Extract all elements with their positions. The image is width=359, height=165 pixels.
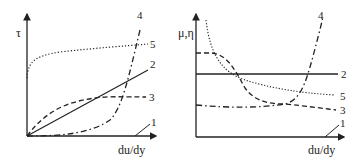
left-label-4: 4 xyxy=(137,9,143,21)
right-label-4: 4 xyxy=(318,9,324,21)
right-y-label: μ,η xyxy=(178,26,194,40)
right-x-label: du/dy xyxy=(308,143,335,157)
left-y-label: τ xyxy=(16,26,21,40)
right-label-3: 3 xyxy=(340,104,346,116)
left-label-2: 2 xyxy=(150,58,156,70)
right-curve-3 xyxy=(196,53,336,110)
right-plot: μ,η du/dy 4 2 5 3 1 xyxy=(178,9,347,157)
right-curve-5 xyxy=(206,20,335,95)
left-label-5: 5 xyxy=(150,38,156,50)
left-curve-2 xyxy=(27,70,148,136)
figure: τ du/dy 4 5 2 3 1 μ,η du/dy 4 2 xyxy=(0,0,359,165)
left-plot: τ du/dy 4 5 2 3 1 xyxy=(16,9,157,157)
right-label-5: 5 xyxy=(340,90,346,102)
right-curve-1-leader xyxy=(325,125,339,137)
left-label-3: 3 xyxy=(149,91,155,103)
left-curve-1-leader xyxy=(135,124,150,136)
left-x-label: du/dy xyxy=(118,143,145,157)
right-label-2: 2 xyxy=(341,68,347,80)
right-curve-4 xyxy=(196,17,323,107)
right-label-1: 1 xyxy=(340,117,346,129)
left-label-1: 1 xyxy=(151,116,157,128)
